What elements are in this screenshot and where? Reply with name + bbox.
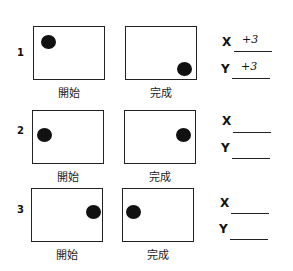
y-value: +3 bbox=[241, 60, 257, 73]
end-label: 完成 bbox=[125, 84, 197, 100]
start-box bbox=[33, 26, 105, 80]
dot-icon bbox=[37, 128, 52, 142]
start-label: 開始 bbox=[33, 84, 105, 100]
dot-icon bbox=[177, 62, 192, 76]
end-label: 完成 bbox=[124, 168, 196, 184]
start-label: 開始 bbox=[32, 168, 104, 184]
y-answer-field[interactable] bbox=[232, 144, 270, 159]
row-number: 2 bbox=[17, 125, 24, 136]
start-box bbox=[32, 110, 104, 164]
x-value: +3 bbox=[242, 33, 258, 46]
x-answer-field[interactable] bbox=[231, 199, 269, 214]
x-label: X bbox=[222, 114, 231, 128]
row-number: 3 bbox=[17, 204, 24, 215]
start-label: 開始 bbox=[31, 246, 103, 262]
end-box bbox=[122, 188, 194, 242]
x-label: X bbox=[220, 196, 229, 210]
dot-icon bbox=[41, 35, 56, 49]
x-answer-field[interactable] bbox=[233, 118, 271, 133]
end-box bbox=[125, 26, 197, 80]
dot-icon bbox=[126, 205, 141, 219]
end-label: 完成 bbox=[122, 246, 194, 262]
start-box bbox=[31, 188, 103, 242]
row-number: 1 bbox=[17, 47, 24, 58]
y-answer-field[interactable] bbox=[230, 225, 268, 240]
dot-icon bbox=[86, 205, 101, 219]
y-label: Y bbox=[221, 141, 230, 155]
y-label: Y bbox=[221, 62, 230, 76]
y-label: Y bbox=[219, 222, 228, 236]
x-label: X bbox=[222, 35, 231, 49]
dot-icon bbox=[176, 128, 191, 142]
end-box bbox=[124, 110, 196, 164]
